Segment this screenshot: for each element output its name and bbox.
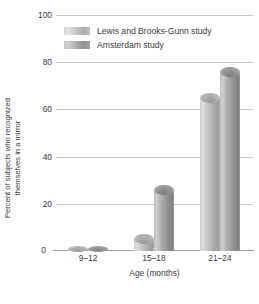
bar-series-b-cat-2[interactable] <box>220 67 240 251</box>
y-tick-label-40: 40 <box>43 152 52 162</box>
bar-body <box>200 98 220 251</box>
bar-cap <box>220 67 240 77</box>
x-tick-label-1: 15–18 <box>142 253 165 263</box>
y-axis-title-line-2: themselves in a mirror <box>13 121 22 196</box>
series-b-swatch-icon <box>64 41 90 49</box>
y-axis-title: Percent of subjects who recognized thems… <box>0 58 26 258</box>
legend-item-1[interactable]: Amsterdam study <box>64 38 212 51</box>
legend-item-0[interactable]: Lewis and Brooks-Gunn study <box>64 24 212 37</box>
chart-legend: Lewis and Brooks-Gunn study Amsterdam st… <box>64 24 212 52</box>
y-tick-label-20: 20 <box>43 199 52 209</box>
y-axis-title-line-1: Percent of subjects who recognized <box>3 98 12 218</box>
bar-series-a-cat-1[interactable] <box>134 234 154 251</box>
bar-body <box>220 72 240 251</box>
bar-cap <box>200 93 220 103</box>
bar-chart: Percent of subjects who recognized thems… <box>0 0 259 304</box>
x-axis-title: Age (months) <box>56 268 253 278</box>
legend-label-1: Amsterdam study <box>97 40 164 50</box>
legend-label-0: Lewis and Brooks-Gunn study <box>97 26 212 36</box>
bar-series-b-cat-1[interactable] <box>154 185 174 251</box>
series-a-swatch-icon <box>64 27 90 35</box>
bar-series-b-cat-0[interactable] <box>88 246 108 251</box>
x-tick-label-2: 21–24 <box>208 253 231 263</box>
bar-series-a-cat-2[interactable] <box>200 93 220 251</box>
y-tick-label-80: 80 <box>43 57 52 67</box>
y-tick-label-0: 0 <box>41 245 46 255</box>
bar-cap <box>154 185 174 195</box>
bar-body <box>154 190 174 251</box>
bar-cap <box>68 246 88 252</box>
bar-series-a-cat-0[interactable] <box>68 246 88 251</box>
y-tick-label-60: 60 <box>43 104 52 114</box>
bar-cap <box>88 246 108 252</box>
x-tick-label-0: 9–12 <box>79 253 98 263</box>
y-tick-label-100: 100 <box>38 10 52 20</box>
